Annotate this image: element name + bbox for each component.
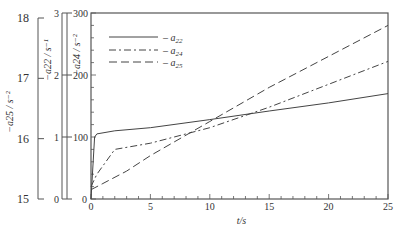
a25-tick-label: 15	[17, 192, 29, 206]
a24-tick-label: 0	[82, 194, 87, 205]
a24-axis-label: −a24 / s⁻²	[71, 33, 82, 76]
legend-label-a22: – a22	[162, 32, 183, 45]
axes: 0510152025t/s0100200300−a24 / s⁻²0123−a2…	[4, 8, 393, 227]
x-tick-label: 15	[264, 201, 274, 212]
series-a24	[91, 61, 388, 186]
x-tick-label: 10	[205, 201, 215, 212]
series-a22	[91, 94, 388, 199]
x-axis-label: t/s	[237, 215, 247, 226]
x-tick-label: 0	[89, 201, 94, 212]
a25-tick-label: 18	[17, 11, 29, 25]
chart: 0510152025t/s0100200300−a24 / s⁻²0123−a2…	[0, 0, 401, 235]
a24-tick-label: 300	[73, 8, 88, 19]
a25-tick-label: 16	[17, 132, 29, 146]
a22-tick-label: 1	[54, 132, 59, 143]
a25-axis-label: −a25 / s⁻²	[4, 90, 15, 133]
legend-label-a25: – a25	[162, 57, 183, 70]
plot-frame	[91, 13, 388, 199]
legend: – a22– a24– a25	[109, 32, 183, 70]
x-tick-label: 25	[383, 201, 393, 212]
a22-tick-label: 2	[54, 70, 59, 81]
a22-axis-label: −a22 / s⁻¹	[42, 39, 53, 81]
a22-tick-label: 3	[54, 8, 59, 19]
x-tick-label: 5	[148, 201, 153, 212]
x-tick-label: 20	[324, 201, 334, 212]
a22-tick-label: 0	[54, 194, 59, 205]
a25-tick-label: 17	[17, 71, 29, 85]
series	[91, 25, 388, 199]
chart-canvas: 0510152025t/s0100200300−a24 / s⁻²0123−a2…	[0, 0, 401, 235]
a24-tick-label: 100	[73, 132, 88, 143]
